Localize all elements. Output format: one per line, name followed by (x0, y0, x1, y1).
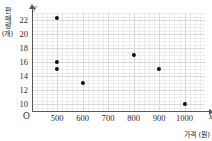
grid-line-horizontal-20 (32, 34, 206, 35)
x-axis-tick-label-900: 900 (145, 114, 173, 123)
y-axis-tick-label-14: 14 (0, 72, 28, 81)
origin-label: O (23, 112, 30, 122)
x-axis-tick-label-500: 500 (43, 114, 71, 123)
x-axis-tick-label-700: 700 (94, 114, 122, 123)
grid-line-horizontal-14 (32, 76, 206, 77)
y-axis-tick-label-16: 16 (0, 58, 28, 67)
x-axis-tick-label-600: 600 (69, 114, 97, 123)
y-axis-tick-label-22: 22 (0, 16, 28, 25)
grid-line-horizontal-18 (32, 48, 206, 49)
y-axis-tick-label-20: 20 (0, 30, 28, 39)
x-axis-tick-label-800: 800 (120, 114, 148, 123)
y-axis-tick-label-10: 10 (0, 100, 28, 109)
scatter-chart: 판 매 량 (개) 가격 (원) yxO10121416182022500600… (0, 0, 212, 141)
x-axis-title: 가격 (원) (184, 132, 210, 140)
y-axis-tick-label-18: 18 (0, 44, 28, 53)
y-axis-variable-label: y (33, 4, 37, 12)
x-axis-tick-label-1000: 1000 (171, 114, 199, 123)
grid-line-horizontal-12 (32, 90, 206, 91)
y-axis-tick-label-12: 12 (0, 86, 28, 95)
x-axis-variable-label: x (209, 113, 212, 121)
y-axis-line (32, 9, 33, 112)
